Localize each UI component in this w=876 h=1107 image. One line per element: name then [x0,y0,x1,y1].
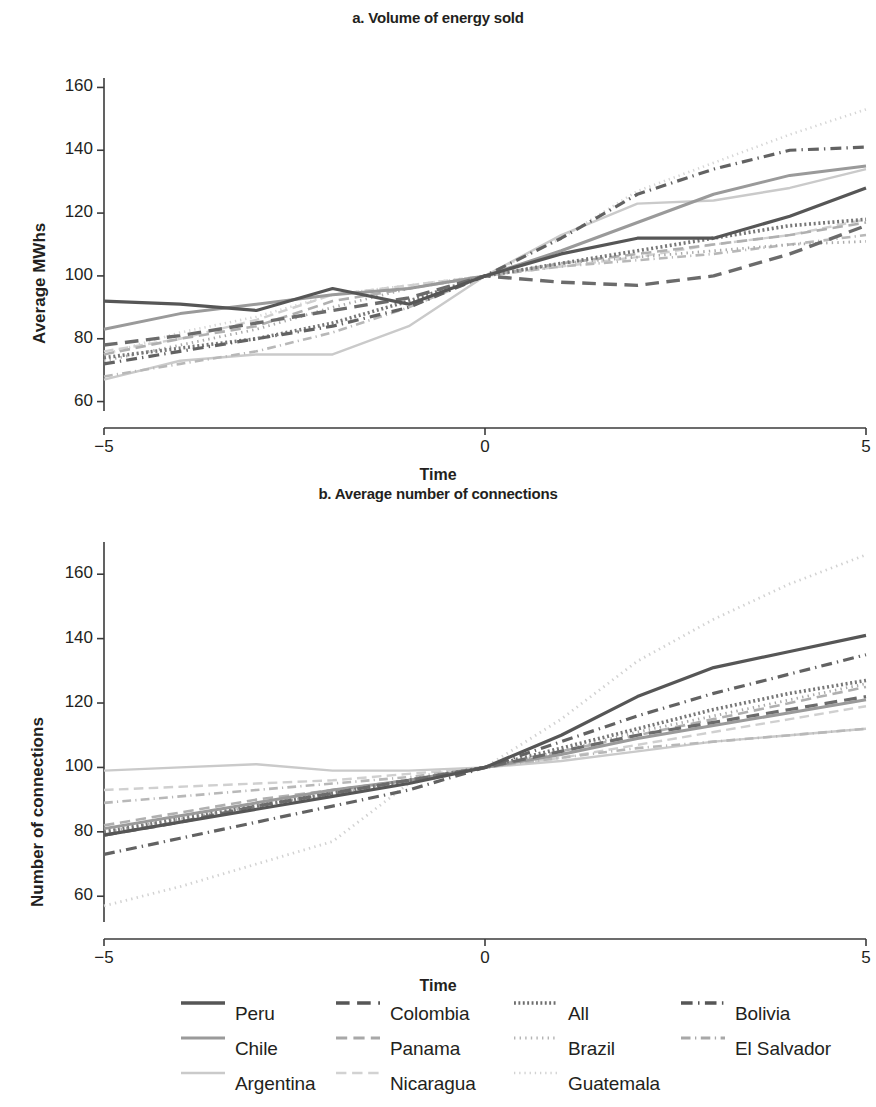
series-line-panama [104,223,866,355]
figure-page: a. Volume of energy sold 608010012014016… [0,0,876,1107]
legend-swatch-dash-icon [335,1077,381,1091]
y-tick-label: 140 [37,139,93,159]
series-line-bolivia [104,655,866,855]
series-line-chile [104,166,866,329]
chart-b-canvas [0,502,876,958]
x-tick-label: −5 [74,948,134,968]
series-line-chile [104,700,866,829]
legend-row: ChilePanamaBrazilEl Salvador [0,1031,876,1066]
legend-swatch-dash-icon [335,1042,381,1056]
legend-swatch-dot-icon [513,1042,559,1056]
legend-row: ArgentinaNicaraguaGuatemala [0,1066,876,1101]
legend-label: Guatemala [568,1073,660,1095]
series-line-colombia [104,226,866,345]
legend-label: Bolivia [735,1003,790,1025]
legend-item-peru[interactable]: Peru [180,996,275,1031]
y-tick-label: 160 [37,563,93,583]
legend-item-el-salvador[interactable]: El Salvador [680,1031,831,1066]
x-tick-label: 5 [836,437,876,457]
legend-item-argentina[interactable]: Argentina [180,1066,315,1101]
legend-label: Panama [390,1038,460,1060]
legend-swatch-solid-icon [180,1007,226,1021]
y-tick-label: 140 [37,628,93,648]
x-tick-label: 0 [455,437,515,457]
legend-swatch-dashdot-icon [680,1007,726,1021]
legend-item-bolivia[interactable]: Bolivia [680,996,790,1031]
legend-item-all[interactable]: All [513,996,589,1031]
legend-label: El Salvador [735,1038,831,1060]
legend-label: Colombia [390,1003,469,1025]
series-line-argentina [104,729,866,771]
legend-item-guatemala[interactable]: Guatemala [513,1066,660,1101]
legend-label: All [568,1003,589,1025]
series-line-guatemala [104,555,866,906]
legend-label: Brazil [568,1038,615,1060]
legend-item-brazil[interactable]: Brazil [513,1031,615,1066]
series-line-panama [104,687,866,825]
chart-b-title: b. Average number of connections [0,470,876,502]
y-axis-label: Number of connections [28,717,48,907]
legend-label: Chile [235,1038,278,1060]
y-tick-label: 120 [37,202,93,222]
y-tick-label: 120 [37,692,93,712]
legend-label: Peru [235,1003,275,1025]
legend-swatch-dash-icon [335,1007,381,1021]
y-axis-label: Average MWhs [30,223,50,344]
legend-item-panama[interactable]: Panama [335,1031,460,1066]
chart-a-plot-area: 6080100120140160−505TimeAverage MWhs [0,26,876,460]
y-tick-label: 160 [37,76,93,96]
series-line-brazil [104,241,866,360]
legend-swatch-dashdot-icon [680,1042,726,1056]
legend-item-chile[interactable]: Chile [180,1031,278,1066]
legend-label: Nicaragua [390,1073,476,1095]
x-tick-label: −5 [74,437,134,457]
legend-item-colombia[interactable]: Colombia [335,996,469,1031]
chart-a-title: a. Volume of energy sold [0,0,876,26]
legend-swatch-solid-icon [180,1042,226,1056]
legend-label: Argentina [235,1073,315,1095]
chart-panel-b: b. Average number of connections 6080100… [0,470,876,970]
chart-b-plot-area: 6080100120140160−505TimeNumber of connec… [0,502,876,958]
chart-panel-a: a. Volume of energy sold 608010012014016… [0,0,876,470]
figure-legend: PeruColombiaAllBoliviaChilePanamaBrazilE… [0,996,876,1101]
legend-swatch-solid-icon [180,1077,226,1091]
legend-row: PeruColombiaAllBolivia [0,996,876,1031]
series-line-guatemala [104,109,866,354]
legend-item-nicaragua[interactable]: Nicaragua [335,1066,476,1101]
legend-swatch-dot-icon [513,1077,559,1091]
chart-a-canvas [0,26,876,460]
y-tick-label: 60 [37,391,93,411]
x-tick-label: 0 [455,948,515,968]
legend-swatch-hatch-icon [513,1007,559,1021]
x-axis-label: Time [0,977,876,995]
x-tick-label: 5 [836,948,876,968]
